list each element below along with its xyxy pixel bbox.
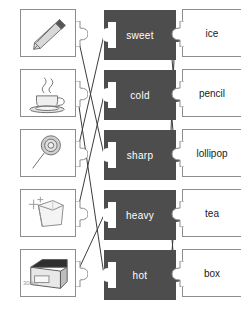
picture-card-heavybox[interactable]: 30 kg [20, 249, 76, 297]
noun-card-lollipop[interactable]: lollipop [182, 129, 241, 177]
word-card-heavy[interactable]: heavy [104, 190, 176, 240]
noun-card-tea[interactable]: tea [182, 189, 241, 237]
word-label: hot [104, 270, 176, 281]
puzzle-knob-left [171, 81, 184, 107]
word-label: sweet [104, 30, 176, 41]
word-card-hot[interactable]: hot [104, 250, 176, 300]
word-card-sharp[interactable]: sharp [104, 130, 176, 180]
picture-card-pencil[interactable] [20, 9, 76, 57]
noun-label: box [183, 268, 241, 279]
noun-card-ice[interactable]: ice [182, 9, 241, 57]
noun-label: pencil [183, 88, 241, 99]
teacup-icon [21, 70, 75, 116]
word-card-sweet[interactable]: sweet [104, 10, 176, 60]
picture-card-lollipop[interactable] [20, 129, 76, 177]
puzzle-knob-left [171, 21, 184, 47]
word-card-cold[interactable]: cold [104, 70, 176, 120]
worksheet-canvas: 30 kg sweet cold [0, 0, 241, 312]
puzzle-knob-right [76, 81, 88, 107]
puzzle-knob-left [171, 201, 184, 227]
noun-label: ice [183, 28, 241, 39]
puzzle-knob-right [76, 21, 88, 47]
heavy-box-icon [21, 250, 75, 296]
ice-cube-icon [21, 190, 75, 236]
noun-label: lollipop [183, 148, 241, 159]
puzzle-knob-left [171, 141, 184, 167]
lollipop-icon [21, 130, 75, 176]
puzzle-knob-right [76, 141, 88, 167]
picture-card-cup[interactable] [20, 69, 76, 117]
word-label: cold [104, 90, 176, 101]
puzzle-knob-right [76, 261, 88, 287]
puzzle-knob-right [76, 201, 88, 227]
pencil-icon [21, 10, 75, 56]
noun-card-box[interactable]: box [182, 249, 241, 297]
link-cup-hot [77, 93, 104, 275]
noun-label: tea [183, 208, 241, 219]
puzzle-knob-left [171, 261, 184, 287]
noun-card-pencil[interactable]: pencil [182, 69, 241, 117]
box-weight-label: 30 kg [23, 280, 38, 286]
word-label: sharp [104, 150, 176, 161]
picture-card-icecube[interactable] [20, 189, 76, 237]
word-label: heavy [104, 210, 176, 221]
